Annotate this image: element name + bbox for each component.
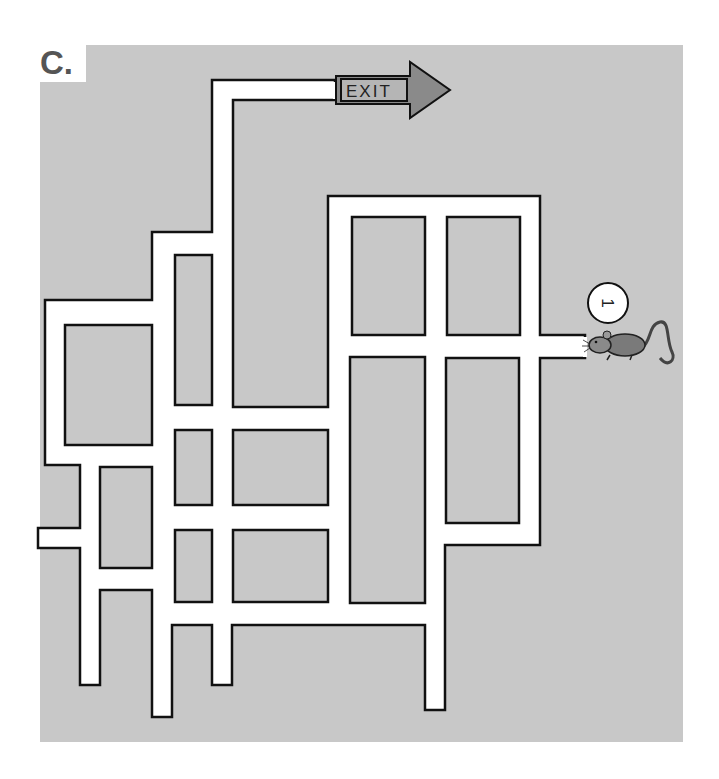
- maze-wall-block: [65, 325, 152, 445]
- maze-wall-block: [352, 217, 425, 335]
- start-number: 1: [598, 298, 617, 307]
- exit-label: EXIT: [346, 82, 392, 101]
- maze-wall-block: [175, 530, 212, 602]
- maze-wall-block: [447, 217, 520, 335]
- maze-wall-block: [175, 255, 212, 405]
- maze-wall-block: [446, 358, 519, 523]
- maze-wall-block: [175, 430, 212, 505]
- maze-board: EXIT 1: [0, 0, 719, 779]
- maze-wall-block: [233, 530, 328, 602]
- maze-wall-block: [233, 430, 328, 505]
- maze-wall-block: [100, 467, 152, 568]
- maze-wall-block: [350, 357, 425, 603]
